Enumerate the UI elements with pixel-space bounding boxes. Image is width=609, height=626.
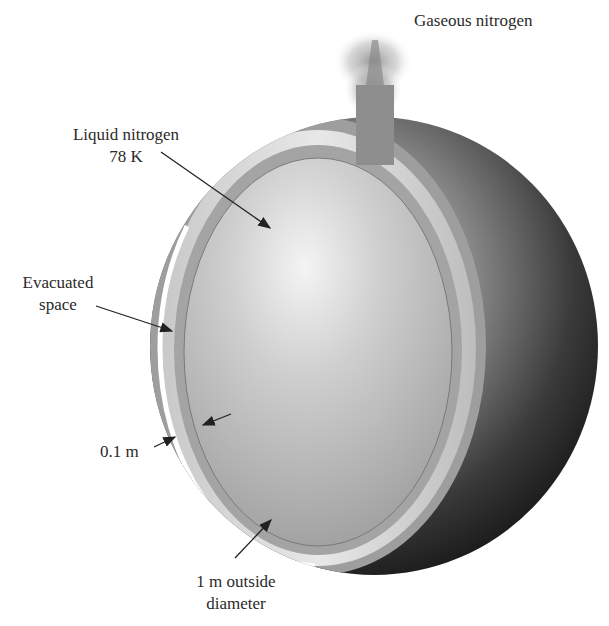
neck-tube: [356, 85, 394, 165]
nitrogen-sphere-diagram: Gaseous nitrogen Liquid nitrogen 78 K Ev…: [0, 0, 609, 626]
outside-diameter-label-line2: diameter: [176, 593, 296, 615]
evacuated-space-label-line1: Evacuated: [10, 272, 106, 294]
liquid-nitrogen-label: Liquid nitrogen 78 K: [56, 124, 196, 168]
cutaway-section: [150, 117, 486, 575]
liquid-nitrogen-temperature: 78 K: [56, 146, 196, 168]
outside-diameter-label: 1 m outside diameter: [176, 571, 296, 615]
thickness-label: 0.1 m: [100, 441, 139, 463]
liquid-nitrogen-label-line1: Liquid nitrogen: [56, 124, 196, 146]
gaseous-nitrogen-label: Gaseous nitrogen: [414, 10, 533, 32]
evacuated-space-label: Evacuated space: [10, 272, 106, 316]
evacuated-space-label-line2: space: [10, 294, 106, 316]
outside-diameter-label-line1: 1 m outside: [176, 571, 296, 593]
